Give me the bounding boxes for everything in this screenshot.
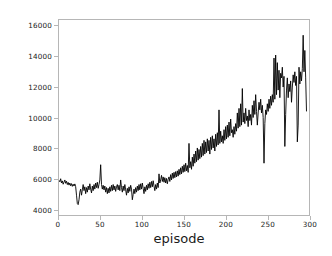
x-tick-label: 200 (211, 220, 241, 229)
x-tick-label: 100 (127, 220, 157, 229)
x-tick-label: 300 (295, 220, 325, 229)
series-polyline (59, 35, 307, 204)
y-tick-label: 6000 (0, 175, 52, 184)
x-tick-mark (142, 216, 143, 220)
x-tick-mark (310, 216, 311, 220)
x-tick-label: 250 (253, 220, 283, 229)
x-axis-title-text: episode (154, 231, 205, 246)
x-tick-mark (226, 216, 227, 220)
y-tick-label: 8000 (0, 144, 52, 153)
x-tick-mark (184, 216, 185, 220)
asset-line-series (59, 20, 309, 215)
x-tick-mark (58, 216, 59, 220)
x-tick-mark (268, 216, 269, 220)
x-axis-title: episode (0, 231, 332, 246)
x-tick-mark (100, 216, 101, 220)
x-tick-label: 50 (85, 220, 115, 229)
y-tick-label: 4000 (0, 205, 52, 214)
y-tick-label: 14000 (0, 51, 52, 60)
y-tick-label: 16000 (0, 21, 52, 30)
x-tick-label: 150 (169, 220, 199, 229)
y-tick-label: 12000 (0, 82, 52, 91)
matplotlib-figure: 40006000800010000120001400016000 0501001… (0, 0, 332, 256)
plot-area (58, 19, 310, 216)
y-tick-label: 10000 (0, 113, 52, 122)
x-tick-label: 0 (43, 220, 73, 229)
